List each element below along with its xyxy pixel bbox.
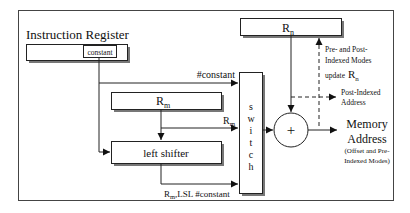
svg-text:h: h <box>249 161 254 172</box>
svg-text:(Offset and Pre-: (Offset and Pre- <box>345 147 391 155</box>
left-shifter-label: left shifter <box>143 147 189 159</box>
svg-text:updateRn: updateRn <box>325 68 359 83</box>
update-rn-annotation: Pre- and Post- Indexed Modes updateRn <box>325 45 372 83</box>
svg-text:c: c <box>249 149 254 160</box>
svg-text:Indexed Modes: Indexed Modes <box>325 56 372 65</box>
shifted-edge-label: Rm,LSL #constant <box>164 189 230 200</box>
adder-symbol: + <box>287 122 295 138</box>
rm-edge-label: Rm <box>223 115 236 128</box>
svg-text:Address: Address <box>347 132 387 146</box>
svg-text:s: s <box>249 101 253 112</box>
constant-field-label: constant <box>88 48 114 57</box>
svg-text:Post-Indexed: Post-Indexed <box>341 88 381 97</box>
svg-text:t: t <box>250 137 253 148</box>
svg-text:i: i <box>250 125 253 136</box>
svg-text:Pre- and Post-: Pre- and Post- <box>325 45 368 54</box>
addressing-diagram: Instruction Register constant #constant … <box>0 0 410 213</box>
memory-address-annotation: Memory Address (Offset and Pre- Indexed … <box>344 117 390 165</box>
svg-text:Memory: Memory <box>346 117 387 131</box>
post-indexed-annotation: Post-Indexed Address <box>341 88 381 107</box>
constant-edge-label: #constant <box>197 69 236 80</box>
svg-text:Address: Address <box>341 98 366 107</box>
svg-text:w: w <box>247 113 255 124</box>
instruction-register-title: Instruction Register <box>26 27 130 42</box>
svg-text:Indexed Modes): Indexed Modes) <box>344 157 390 165</box>
